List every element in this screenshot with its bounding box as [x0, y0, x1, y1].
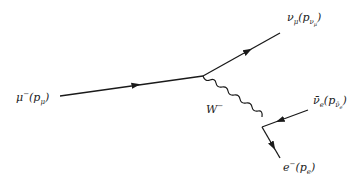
- label-nu-mu: νμ(pνμ): [287, 12, 321, 27]
- label-electron: e−(pe): [283, 161, 315, 176]
- muon-propagator: [60, 76, 203, 96]
- nu-mu-propagator: [203, 33, 280, 76]
- label-muon: μ−(pμ): [16, 91, 49, 106]
- electron-propagator: [262, 127, 280, 158]
- anti-nu-e-propagator: [262, 110, 308, 127]
- label-anti-nu-e: ν̄e(pν̄e): [313, 95, 347, 110]
- label-w-boson: W−: [206, 103, 223, 115]
